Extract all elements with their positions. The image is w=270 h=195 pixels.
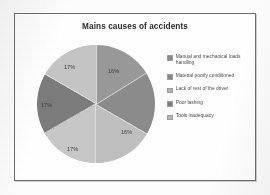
legend-item-label: Poor lashing: [176, 100, 203, 106]
legend-item-lack-of-rest[interactable]: Lack of rest of the driver: [167, 86, 255, 93]
legend-item-material-poorly-conditioned[interactable]: Material poorly conditioned: [167, 73, 255, 80]
legend-swatch-icon: [167, 101, 173, 107]
legend-item-tools-inadequacy[interactable]: Tools inadequacy: [167, 113, 255, 120]
chart-legend: Manual and mechanical loads handling Mat…: [167, 54, 255, 127]
legend-swatch-icon: [167, 74, 173, 80]
pie-circle[interactable]: [37, 45, 155, 163]
slide-frame: Mains causes of accidents 16% 16% 17% 17…: [14, 13, 256, 181]
pie-label-left: 17%: [41, 102, 52, 108]
chart-title: Mains causes of accidents: [15, 22, 255, 31]
legend-swatch-icon: [167, 55, 173, 61]
pie-label-bottom-right: 16%: [121, 129, 132, 135]
legend-item-label: Lack of rest of the driver: [176, 86, 228, 92]
pie-label-top-right: 16%: [108, 68, 119, 74]
legend-item-label: Material poorly conditioned: [176, 73, 234, 79]
screenshot-root: Mains causes of accidents 16% 16% 17% 17…: [0, 0, 270, 195]
pie-label-top-left: 17%: [64, 64, 75, 70]
pie-label-bottom-center: 17%: [67, 146, 78, 152]
slice-divider: [95, 104, 96, 163]
legend-item-poor-lashing[interactable]: Poor lashing: [167, 100, 255, 107]
pie-chart[interactable]: 16% 16% 17% 17% 17%: [37, 42, 155, 168]
slice-divider: [96, 45, 97, 104]
legend-item-label: Manual and mechanical loads handling: [176, 54, 250, 66]
legend-swatch-icon: [167, 115, 173, 121]
legend-item-manual-loads[interactable]: Manual and mechanical loads handling: [167, 54, 255, 66]
legend-item-label: Tools inadequacy: [176, 113, 214, 119]
legend-swatch-icon: [167, 88, 173, 94]
